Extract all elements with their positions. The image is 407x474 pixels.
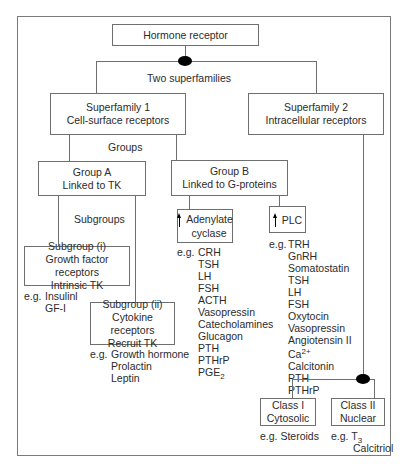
group-b-box: Group B Linked to G-proteins: [171, 160, 288, 196]
example-item: Vasopressin: [198, 306, 273, 318]
group-a-desc: Linked to TK: [63, 179, 122, 192]
group-a-box: Group A Linked to TK: [38, 161, 146, 196]
example-item: PGE2: [198, 366, 273, 378]
example-item: ACTH: [198, 294, 273, 306]
example-item: Catecholamines: [198, 318, 273, 330]
connector: [96, 61, 317, 62]
example-item: TSH: [198, 258, 273, 270]
connector: [292, 379, 293, 398]
example-item: FSH: [198, 282, 273, 294]
connector: [58, 196, 59, 246]
hormone-receptor-label: Hormone receptor: [143, 29, 228, 42]
eg-prefix: e.g.: [177, 246, 195, 378]
eg-prefix: e.g.: [24, 290, 42, 314]
example-item: CRH: [198, 246, 273, 258]
example-item: T3: [351, 430, 362, 442]
adenylate-cyclase-examples: e.g. CRH TSH LH FSH ACTH Vasopressin Cat…: [177, 246, 273, 378]
adenylate-label: Adenylate: [186, 213, 233, 226]
two-superfamilies-label: Two superfamilies: [147, 72, 231, 85]
example-item: TRH: [288, 238, 352, 250]
branch-node-icon: [356, 374, 370, 384]
plc-label: PLC: [282, 214, 302, 227]
class-ii-desc: Nuclear: [340, 412, 376, 425]
class-i-title: Class I: [272, 399, 304, 412]
example-item: PTH: [288, 372, 352, 384]
example-item: LH: [288, 286, 352, 298]
up-arrow-icon: [273, 213, 279, 227]
example-item: Somatostatin: [288, 262, 352, 274]
example-item: Ca2+: [288, 348, 352, 360]
connector: [135, 196, 136, 302]
subgroup-ii-box: Subgroup (ii) Cytokine receptors Recruit…: [90, 302, 175, 345]
connector: [363, 135, 364, 380]
eg-prefix: e.g.: [331, 430, 349, 442]
subgroup-i-desc: Growth factor receptors: [25, 253, 129, 279]
plc-box: PLC: [269, 206, 306, 233]
example-item: TSH: [288, 274, 352, 286]
subgroup-ii-title: Subgroup (ii): [102, 298, 162, 311]
group-a-title: Group A: [73, 166, 112, 179]
connector: [96, 61, 97, 93]
branch-node-icon: [178, 56, 192, 66]
group-b-title: Group B: [210, 165, 249, 178]
example-item: LH: [198, 270, 273, 282]
eg-prefix: e.g.: [269, 238, 287, 396]
example-item: Oxytocin: [288, 310, 352, 322]
adenylate-cyclase-box: Adenylate cyclase: [177, 209, 233, 243]
example-item: PTHrP: [198, 354, 273, 366]
connector: [69, 135, 70, 161]
subgroup-i-examples: e.g. Insulinl GF-I: [24, 290, 78, 314]
superfamily-1-title: Superfamily 1: [86, 101, 150, 114]
example-item: PTHrP: [288, 384, 352, 396]
class-i-examples: e.g. Steroids: [260, 430, 319, 442]
cyclase-label: cyclase: [191, 227, 226, 240]
plc-examples: e.g. TRH GnRH Somatostatin TSH LH FSH Ox…: [269, 238, 352, 396]
subgroup-ii-examples: e.g. Growth hormone Prolactin Leptin: [90, 348, 189, 384]
class-i-desc: Cytosolic: [267, 412, 310, 425]
example-item: Steroids: [280, 430, 319, 442]
example-item: FSH: [288, 298, 352, 310]
subgroup-ii-desc: Cytokine receptors: [91, 311, 174, 337]
superfamily-2-box: Superfamily 2 Intracellular receptors: [248, 93, 384, 135]
connector: [176, 135, 177, 161]
subgroups-label: Subgroups: [74, 213, 125, 226]
example-item: GnRH: [288, 250, 352, 262]
class-i-box: Class I Cytosolic: [260, 398, 316, 426]
eg-prefix: e.g.: [260, 430, 278, 442]
example-item: Calcitriol: [353, 442, 393, 454]
example-item: Insulinl: [45, 290, 78, 302]
eg-prefix: e.g.: [90, 348, 108, 384]
example-item: Angiotensin II: [288, 334, 352, 346]
up-arrow-icon: [177, 213, 183, 227]
connector: [374, 379, 375, 398]
subgroup-i-box: Subgroup (i) Growth factor receptors Int…: [24, 246, 130, 286]
class-ii-box: Class II Nuclear: [331, 398, 385, 426]
example-item: Calcitonin: [288, 360, 352, 372]
example-item: Vasopressin: [288, 322, 352, 334]
subgroup-i-title: Subgroup (i): [48, 240, 106, 253]
class-ii-title: Class II: [340, 399, 375, 412]
superfamily-1-desc: Cell-surface receptors: [67, 114, 170, 127]
superfamily-2-title: Superfamily 2: [284, 101, 348, 114]
example-item: GF-I: [45, 302, 78, 314]
connector: [189, 196, 190, 209]
class-ii-examples: e.g. T3 Calcitriol: [331, 430, 393, 454]
connector: [316, 61, 317, 93]
example-item: Glucagon: [198, 330, 273, 342]
group-b-desc: Linked to G-proteins: [182, 178, 277, 191]
superfamily-2-desc: Intracellular receptors: [266, 114, 367, 127]
hormone-receptor-box: Hormone receptor: [112, 24, 259, 46]
example-item: PTH: [198, 342, 273, 354]
connector: [279, 196, 280, 206]
superfamily-1-box: Superfamily 1 Cell-surface receptors: [50, 93, 186, 135]
groups-label: Groups: [108, 141, 142, 154]
